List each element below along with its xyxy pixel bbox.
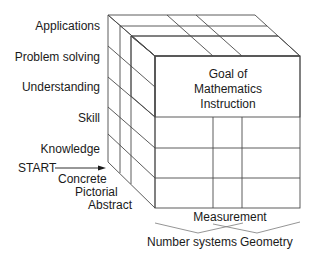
goal-of-instruction-cube-diagram: Goal of Mathematics Instruction Applicat… (0, 0, 319, 260)
goal-line-2: Mathematics (194, 82, 262, 96)
label-abstract: Abstract (88, 198, 133, 212)
label-pictorial: Pictorial (75, 185, 118, 199)
label-understanding: Understanding (22, 80, 100, 94)
label-number-systems: Number systems (147, 235, 237, 249)
label-problem-solving: Problem solving (15, 50, 100, 64)
depth-axis-labels: Concrete Pictorial Abstract (58, 172, 133, 212)
goal-line-1: Goal of (209, 67, 248, 81)
label-concrete: Concrete (58, 172, 107, 186)
label-knowledge: Knowledge (41, 142, 101, 156)
content-axis: Measurement Number systems Geometry (147, 210, 300, 249)
label-measurement: Measurement (193, 210, 267, 224)
vertical-axis-labels: Applications Problem solving Understandi… (15, 19, 101, 156)
goal-block: Goal of Mathematics Instruction (131, 36, 300, 117)
cube-left-face (108, 15, 155, 208)
label-applications: Applications (35, 19, 100, 33)
goal-line-3: Instruction (200, 97, 255, 111)
start-label: START (18, 161, 57, 175)
label-skill: Skill (78, 111, 100, 125)
label-geometry: Geometry (240, 235, 293, 249)
cube-top-face (108, 15, 300, 56)
